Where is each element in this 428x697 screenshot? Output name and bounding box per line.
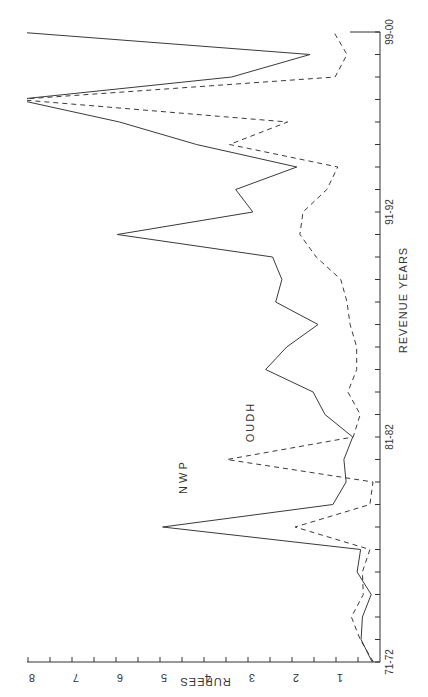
- y-axis-title: RUPEES: [179, 676, 230, 688]
- year-tick-label: 91-92: [384, 199, 395, 225]
- chart-axes: [27, 32, 380, 662]
- rupee-tick-label: 8: [29, 672, 35, 684]
- rupee-tick-label: 5: [161, 672, 167, 684]
- series-nwp-line: [17, 32, 372, 662]
- rupee-tick-label: 1: [337, 672, 343, 684]
- rupee-tick-label: 3: [249, 672, 255, 684]
- axis-labels: RUPEES REVENUE YEARS N W P OUDH: [177, 247, 409, 688]
- rupees-by-revenue-year-chart: 1234567871-7281-8291-9299-00 RUPEES REVE…: [0, 0, 428, 697]
- x-axis-title: REVENUE YEARS: [397, 247, 409, 353]
- series-oudh-line: [17, 32, 373, 662]
- year-tick-label: 81-82: [384, 424, 395, 450]
- series-label-oudh: OUDH: [244, 402, 256, 442]
- data-series: [17, 32, 373, 662]
- year-tick-label: 71-72: [384, 649, 395, 675]
- rupee-tick-label: 7: [73, 672, 79, 684]
- rupee-tick-label: 2: [293, 672, 299, 684]
- axis-ticks: 1234567871-7281-8291-9299-00: [28, 19, 395, 684]
- rupee-tick-label: 6: [117, 672, 123, 684]
- year-tick-label: 99-00: [384, 19, 395, 45]
- series-label-nwp: N W P: [177, 462, 189, 494]
